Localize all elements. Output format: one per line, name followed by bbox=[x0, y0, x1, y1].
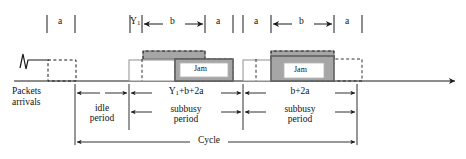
packets-arrivals-label: Packets arrivals bbox=[12, 86, 41, 109]
diagram-canvas bbox=[0, 0, 466, 159]
subbusy-group-1 bbox=[129, 51, 233, 81]
idle-period-label: idle period bbox=[77, 104, 127, 124]
dashed-box-arrival bbox=[48, 60, 76, 81]
timing-diagram-figure: a Y1 b a a b a Jam Jam Packets arrivals … bbox=[0, 0, 466, 159]
jam-label-2: Jam bbox=[294, 66, 307, 74]
subbusy-period-1-line2: period bbox=[155, 115, 217, 125]
subbusy-period-1-label: subbusy period bbox=[155, 105, 217, 125]
top-label-a-1: a bbox=[58, 17, 62, 27]
cycle-label: Cycle bbox=[192, 136, 226, 146]
gray-bar-1 bbox=[143, 51, 205, 59]
top-label-a-4: a bbox=[345, 17, 349, 27]
top-label-y1-sub: 1 bbox=[137, 19, 140, 26]
top-label-a-3: a bbox=[254, 17, 258, 27]
subbusy2-duration-label: b+2a bbox=[272, 87, 328, 97]
subbusy1-duration-rest: +b+2a bbox=[179, 86, 203, 96]
top-label-b-2: b bbox=[299, 17, 304, 27]
packets-arrivals-line1: Packets bbox=[12, 86, 41, 97]
packets-arrivals-line2: arrivals bbox=[12, 97, 41, 108]
top-label-a-2: a bbox=[216, 17, 220, 27]
top-label-b-1: b bbox=[170, 17, 175, 27]
idle-period-line2: period bbox=[77, 114, 127, 124]
tx-box-1 bbox=[129, 60, 175, 81]
subbusy-period-2-line2: period bbox=[269, 115, 331, 125]
sawtooth-arrival-icon bbox=[20, 54, 49, 69]
jam-label-1: Jam bbox=[194, 65, 207, 73]
top-label-y1: Y1 bbox=[130, 17, 140, 27]
subbusy1-duration-label: Y1+b+2a bbox=[155, 87, 217, 97]
subbusy-period-2-label: subbusy period bbox=[269, 105, 331, 125]
top-label-y1-base: Y bbox=[130, 16, 137, 26]
subbusy1-duration-base: Y bbox=[169, 86, 176, 96]
